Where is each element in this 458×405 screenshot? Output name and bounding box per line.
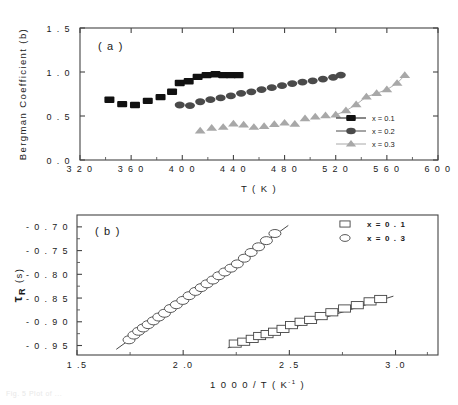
data-marker-open-square [375,295,387,302]
data-marker-triangle [218,123,229,130]
x-tick-label: 2 .0 [173,360,194,370]
panel-b-xlabel: 1 0 0 0 / T ( K-1 ) [210,379,305,390]
data-marker-circle [246,88,256,95]
legend-label: x = 0.1 [372,114,395,123]
data-marker-circle [308,77,318,84]
data-marker-circle [236,90,246,97]
data-marker-triangle [206,124,217,131]
x-tick-label: 4 4 0 [220,164,247,174]
legend-label: x = 0 . 1 [367,220,406,229]
data-marker-triangle [248,123,259,130]
data-marker-triangle [259,122,270,129]
x-tick-label: 6 0 0 [424,164,451,174]
data-marker-square [202,72,212,78]
data-marker-triangle [381,85,392,92]
data-marker-circle [257,86,267,93]
data-marker-circle [195,98,205,105]
data-marker-square [175,80,185,86]
x-tick-label: 1 .5 [67,360,88,370]
data-marker-square [117,101,127,107]
data-marker-square [184,78,194,84]
data-marker-circle [277,82,287,89]
data-marker-triangle [371,89,382,96]
panel-b-ylabel: τR (s) [10,268,27,302]
data-marker-triangle [399,71,410,78]
panel-a-legend: x = 0.1x = 0.2x = 0.3 [336,114,395,149]
panel-b-label: ( b ) [95,225,121,237]
data-marker-open-square [339,305,351,312]
panel-a-label: ( a ) [98,40,124,52]
panel-a: 3 2 03 6 04 0 04 4 04 8 05 2 05 6 06 0 0… [0,0,458,200]
series-1 [104,71,243,108]
data-marker-square [193,74,203,80]
panel-b-plot: 1 .52 .02 .53 .0- 0 . 7 0- 0 . 7 5- 0 . … [0,198,458,405]
data-marker-open-square [340,221,350,227]
data-marker-circle [336,72,346,79]
figure-caption: Fig. 5 Plot of ... [6,390,62,397]
data-marker-circle [318,76,328,83]
legend-label: x = 0.3 [372,140,395,149]
data-marker-circle [226,93,236,100]
panel-a-ylabel: Bergman Coefficient (b) [17,28,28,160]
data-marker-circle [267,84,277,91]
data-marker-triangle [341,107,352,114]
data-marker-square [104,97,114,103]
data-marker-circle [185,102,195,109]
x-tick-label: 2 .5 [279,360,300,370]
figure-container: 3 2 03 6 04 0 04 4 04 8 05 2 05 6 06 0 0… [0,0,458,405]
panel-b-legend: x = 0 . 1x = 0 . 3 [340,220,406,243]
y-tick-label: 0 . 5 [46,112,71,122]
data-marker-triangle [279,119,290,126]
y-tick-label: - 0 . 8 5 [26,294,69,304]
legend-label: x = 0.2 [372,127,395,136]
y-tick-label: 1 . 5 [46,24,71,34]
data-marker-triangle [330,111,341,118]
data-marker-open-circle [340,235,350,242]
data-marker-triangle [195,127,206,134]
data-marker-circle [346,128,356,134]
data-marker-triangle [228,120,239,127]
data-marker-open-square [351,302,363,309]
series-1 [228,295,394,347]
data-marker-circle [216,95,226,102]
y-tick-label: - 0 . 7 0 [26,222,69,232]
data-marker-triangle [320,111,331,118]
data-marker-circle [297,79,307,86]
data-marker-circle [287,80,297,87]
data-marker-circle [205,96,215,103]
x-tick-label: 3 2 0 [66,164,93,174]
data-marker-triangle [361,93,372,100]
data-marker-triangle [300,115,311,122]
y-tick-label: - 0 . 9 5 [26,341,69,351]
x-tick-label: 4 8 0 [271,164,298,174]
data-marker-triangle [310,113,321,120]
data-marker-open-circle [260,237,272,245]
legend-label: x = 0 . 3 [367,234,406,243]
data-marker-open-circle [269,230,281,238]
x-tick-label: 3 6 0 [118,164,145,174]
data-marker-square [346,115,356,121]
data-marker-square [143,98,153,104]
panel-a-plot: 3 2 03 6 04 0 04 4 04 8 05 2 05 6 06 0 0… [0,0,458,200]
panel-a-xlabel: T ( K ) [241,183,277,194]
data-marker-square [234,72,244,78]
data-marker-circle [175,102,185,109]
y-tick-label: - 0 . 8 0 [26,270,69,280]
y-tick-label: - 0 . 9 0 [26,317,69,327]
x-tick-label: 5 6 0 [373,164,400,174]
y-tick-label: - 0 . 7 5 [26,246,69,256]
panel-b: 1 .52 .02 .53 .0- 0 . 7 0- 0 . 7 5- 0 . … [0,198,458,405]
data-marker-square [156,94,166,100]
data-marker-triangle [289,120,300,127]
x-tick-label: 4 0 0 [169,164,196,174]
data-marker-open-square [326,309,338,316]
y-tick-label: 0 . 0 [46,156,71,166]
data-marker-square [130,102,140,108]
data-marker-triangle [269,120,280,127]
x-tick-label: 5 2 0 [322,164,349,174]
data-marker-triangle [238,121,249,128]
data-marker-triangle [346,140,356,146]
data-marker-triangle [392,79,403,86]
data-marker-square [167,89,177,95]
y-tick-label: 1 . 0 [46,68,71,78]
